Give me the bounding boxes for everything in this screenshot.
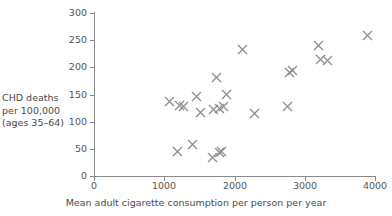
data-point-marker <box>191 91 202 102</box>
data-point-marker <box>313 40 324 51</box>
data-point-marker <box>172 146 183 157</box>
data-point-marker <box>195 107 206 118</box>
x-axis-title: Mean adult cigarette consumption per per… <box>0 197 392 208</box>
clipped-chart-title <box>0 0 392 6</box>
y-axis-title-line-3: (ages 35–64) <box>2 117 74 130</box>
y-tick-label-200: 200 <box>57 61 87 72</box>
data-point-marker <box>187 139 198 150</box>
x-tick-label-4000: 4000 <box>355 180 392 191</box>
data-point-marker <box>174 100 185 111</box>
data-point-marker <box>322 55 333 66</box>
data-point-marker <box>211 72 222 83</box>
plot-area <box>94 13 375 176</box>
data-point-marker <box>208 104 219 115</box>
data-point-marker <box>315 54 326 65</box>
data-point-marker <box>216 146 227 157</box>
data-point-marker <box>249 108 260 119</box>
data-point-marker <box>221 89 232 100</box>
y-axis-title-line-2: per 100,000 <box>2 105 74 118</box>
y-tick-label-50: 50 <box>57 143 87 154</box>
x-tick-label-2000: 2000 <box>215 180 255 191</box>
x-tick-label-0: 0 <box>74 180 114 191</box>
data-point-marker <box>282 101 293 112</box>
data-point-marker <box>207 152 218 163</box>
data-point-marker <box>164 96 175 107</box>
data-point-marker <box>178 101 189 112</box>
y-axis-title-line-1: CHD deaths <box>2 92 74 105</box>
data-point-marker <box>284 67 295 78</box>
scatter-chart: 0 50 100 150 200 250 300 0 1000 2000 300… <box>0 0 392 216</box>
data-point-marker <box>218 101 229 112</box>
y-tick-label-250: 250 <box>57 34 87 45</box>
data-point-marker <box>214 103 225 114</box>
y-axis-title: CHD deaths per 100,000 (ages 35–64) <box>2 92 74 130</box>
data-point-marker <box>287 65 298 76</box>
data-point-marker <box>214 147 225 158</box>
y-tick-label-300: 300 <box>57 7 87 18</box>
x-tick-label-3000: 3000 <box>285 180 325 191</box>
data-point-marker <box>362 30 373 41</box>
x-tick-label-1000: 1000 <box>144 180 184 191</box>
data-point-marker <box>237 44 248 55</box>
